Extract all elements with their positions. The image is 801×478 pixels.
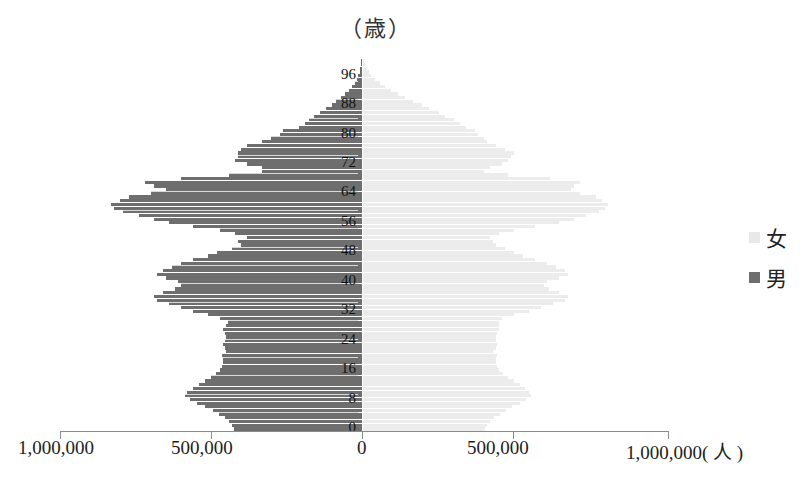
female-bar <box>363 232 499 235</box>
female-bar <box>363 81 380 84</box>
female-bar <box>363 376 508 379</box>
female-bar <box>363 262 547 265</box>
female-bar <box>363 199 602 202</box>
female-bar <box>363 372 503 375</box>
age-tick-label: 96 <box>330 66 356 83</box>
female-bar <box>363 59 364 62</box>
female-bar <box>363 402 520 405</box>
female-bar <box>363 236 490 239</box>
female-bar <box>363 229 514 232</box>
x-tick-label: 500,000 <box>467 437 529 459</box>
female-bar <box>363 361 496 364</box>
x-tick-label: 1,000,000( 人 ) <box>626 437 743 464</box>
legend-label-female: 女 <box>766 222 787 252</box>
age-tick-label: 8 <box>330 390 356 407</box>
female-bar <box>363 144 496 147</box>
female-bar <box>363 118 454 121</box>
female-bar <box>363 346 496 349</box>
female-bar <box>363 243 496 246</box>
female-bar <box>363 310 529 313</box>
female-bar <box>363 391 529 394</box>
female-bar <box>363 148 505 151</box>
female-bar <box>363 265 556 268</box>
age-tick-label: 56 <box>330 213 356 230</box>
female-bar <box>363 70 369 73</box>
female-bar <box>363 365 497 368</box>
female-bar <box>363 203 608 206</box>
female-bar <box>363 379 514 382</box>
female-bar <box>363 324 499 327</box>
female-bar <box>363 328 499 331</box>
female-bar <box>363 424 487 427</box>
age-tick-label: 24 <box>330 331 356 348</box>
female-bar <box>363 295 568 298</box>
female-bar <box>363 122 460 125</box>
female-bar <box>363 413 500 416</box>
female-bar <box>363 184 574 187</box>
female-bar <box>363 151 514 154</box>
female-bar <box>363 251 514 254</box>
female-bar <box>363 74 371 77</box>
female-bar <box>363 299 565 302</box>
legend-label-male: 男 <box>766 262 787 292</box>
female-bar <box>363 207 605 210</box>
female-bar <box>363 398 526 401</box>
female-bar <box>363 85 385 88</box>
x-tick-label: 500,000 <box>171 437 233 459</box>
female-bar <box>363 368 499 371</box>
female-bar <box>363 291 559 294</box>
female-bar <box>363 129 475 132</box>
age-tick-label: 88 <box>330 95 356 112</box>
female-bar <box>363 100 413 103</box>
female-bar <box>363 89 391 92</box>
female-bar <box>363 92 398 95</box>
female-bar <box>363 306 541 309</box>
female-bar <box>363 218 574 221</box>
female-bar <box>363 188 571 191</box>
female-bar <box>363 313 514 316</box>
age-tick-label: 0 <box>330 419 356 436</box>
female-bar <box>363 394 531 397</box>
female-bar <box>363 173 508 176</box>
female-bar <box>363 416 494 419</box>
female-bar <box>363 170 484 173</box>
female-bar <box>363 284 544 287</box>
female-bar <box>363 321 499 324</box>
female-bar <box>363 225 535 228</box>
legend-item-female: 女 <box>749 222 787 252</box>
age-tick-label: 40 <box>330 272 356 289</box>
female-bar <box>363 302 553 305</box>
female-bar <box>363 280 547 283</box>
female-bar <box>363 387 525 390</box>
female-bar <box>363 405 512 408</box>
female-bar <box>363 354 497 357</box>
legend-item-male: 男 <box>749 262 787 292</box>
female-bar <box>363 247 505 250</box>
female-bar <box>363 111 439 114</box>
female-bar <box>363 166 490 169</box>
female-bar <box>363 78 375 81</box>
female-bar <box>363 181 580 184</box>
female-bar <box>363 357 496 360</box>
age-tick-label: 16 <box>330 360 356 377</box>
female-bar <box>363 137 484 140</box>
female-bar <box>363 115 445 118</box>
x-tick-label: 0 <box>357 437 367 459</box>
female-bar <box>363 287 549 290</box>
female-bar <box>363 335 496 338</box>
female-bar <box>363 339 496 342</box>
female-bar <box>363 276 559 279</box>
female-bar <box>363 350 493 353</box>
female-bar <box>363 159 508 162</box>
female-bar <box>363 107 429 110</box>
female-bar <box>363 214 586 217</box>
legend-swatch-female <box>749 232 760 243</box>
female-bar <box>363 195 596 198</box>
female-bar <box>363 126 466 129</box>
female-bar <box>363 67 367 70</box>
female-bar <box>363 332 497 335</box>
female-bar <box>363 155 511 158</box>
female-bar <box>363 103 422 106</box>
female-bar <box>363 269 565 272</box>
x-tick-label: 1,000,000 <box>18 437 94 459</box>
